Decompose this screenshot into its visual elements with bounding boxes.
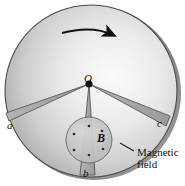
label-center-O: O [84,73,92,84]
magnetic-field-region [66,117,112,163]
magnetic-field-callout: Magnetic field [137,146,179,170]
callout-line-1: Magnetic [137,146,179,158]
callout-line-2: field [137,158,179,170]
label-rim-b: b [83,168,89,179]
label-rim-c: c [157,118,162,129]
label-rim-a: a [7,120,13,131]
label-field-vector-B: B [97,132,105,144]
rotating-disk-magnetic-field-figure: O a b c B Magnetic field [0,0,185,186]
